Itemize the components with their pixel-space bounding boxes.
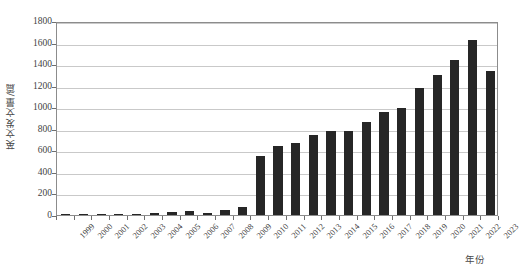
y-tick-label: 400 (6, 168, 52, 178)
x-tick-label: 2006 (202, 222, 220, 240)
y-tick-label: 600 (6, 147, 52, 157)
x-tick-label: 2009 (255, 222, 273, 240)
x-tick-label: 2008 (237, 222, 255, 240)
x-axis-title: 年份 (440, 252, 510, 266)
x-tick-label: 2002 (131, 222, 149, 240)
bar (238, 207, 247, 215)
bar (150, 213, 159, 215)
x-tick-label: 2003 (149, 222, 167, 240)
x-tick-mark (498, 216, 499, 220)
bar (309, 135, 318, 215)
x-tick-label: 2001 (113, 222, 131, 240)
x-tick-label: 2014 (343, 222, 361, 240)
bar-series (57, 23, 497, 215)
x-tick-label: 2017 (396, 222, 414, 240)
x-tick-label: 2015 (361, 222, 379, 240)
y-tick-label: 1400 (6, 60, 52, 70)
x-tick-label: 2018 (414, 222, 432, 240)
bar (220, 210, 229, 215)
bar (114, 214, 123, 215)
x-tick-label: 2000 (95, 222, 113, 240)
bar (362, 122, 371, 215)
x-tick-label: 2016 (378, 222, 396, 240)
bar (468, 40, 477, 215)
bar (344, 131, 353, 215)
bar (450, 60, 459, 215)
bar (433, 75, 442, 215)
bar (397, 108, 406, 215)
bar (326, 131, 335, 215)
x-tick-label: 2010 (272, 222, 290, 240)
x-tick-label: 2013 (325, 222, 343, 240)
bar (203, 213, 212, 215)
x-tick-label: 2021 (467, 222, 485, 240)
bar (97, 214, 106, 215)
bar (167, 212, 176, 215)
bar (486, 71, 495, 215)
y-tick-label: 200 (6, 190, 52, 200)
x-axis-tick-labels: 1999200020012002200320042005200620072008… (56, 220, 498, 254)
y-tick-label: 1000 (6, 103, 52, 113)
bar (291, 143, 300, 215)
x-tick-label: 2020 (449, 222, 467, 240)
y-tick-label: 1600 (6, 39, 52, 49)
x-tick-label: 2004 (166, 222, 184, 240)
bar (379, 112, 388, 215)
bar (256, 156, 265, 215)
x-tick-label: 2007 (219, 222, 237, 240)
x-tick-label: 2022 (484, 222, 502, 240)
x-tick-label: 2005 (184, 222, 202, 240)
x-tick-label: 1999 (78, 222, 96, 240)
bar (273, 146, 282, 215)
y-axis-ticks: 020040060080010001200140016001800 (0, 22, 52, 216)
bar (185, 211, 194, 215)
bar (61, 214, 70, 215)
bar (79, 214, 88, 215)
bar (415, 88, 424, 215)
x-tick-label: 2011 (290, 222, 308, 240)
x-tick-label: 2019 (431, 222, 449, 240)
y-tick-label: 1200 (6, 82, 52, 92)
y-tick-label: 0 (6, 211, 52, 221)
bar (132, 214, 141, 215)
y-tick-label: 800 (6, 125, 52, 135)
y-tick-label: 1800 (6, 17, 52, 27)
x-tick-label: 2012 (308, 222, 326, 240)
plot-area (56, 22, 498, 216)
x-tick-label: 2023 (502, 222, 520, 240)
